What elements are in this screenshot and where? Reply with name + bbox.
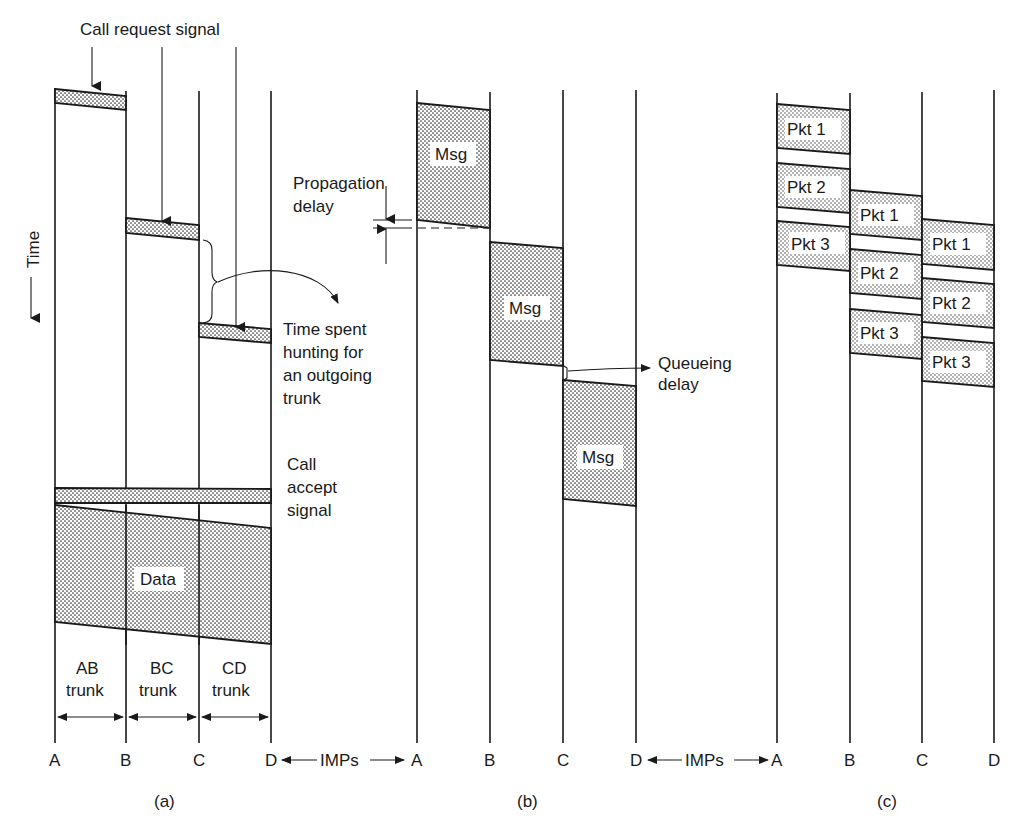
call-request-bar-ab	[55, 89, 126, 110]
svg-text:Pkt 3: Pkt 3	[791, 235, 830, 254]
hunting-label-line1: Time spent	[283, 320, 367, 339]
svg-text:Pkt 3: Pkt 3	[932, 353, 971, 372]
node-label-d: D	[265, 751, 277, 770]
msg-label-bc: Msg	[509, 299, 541, 318]
panel-c-caption: (c)	[877, 792, 897, 811]
node-label-c: C	[193, 751, 205, 770]
svg-text:Pkt 1: Pkt 1	[787, 120, 826, 139]
node-label-b: B	[484, 751, 495, 770]
switching-timing-diagram: Call request signal Time spent hunting f…	[0, 0, 1020, 827]
call-accept-bar	[55, 488, 271, 503]
call-request-label: Call request signal	[80, 20, 220, 39]
trunk-ab-label-line2: trunk	[66, 681, 104, 700]
node-label-b: B	[120, 751, 131, 770]
imps-label-bc: IMPs	[648, 751, 768, 770]
trunk-bc-label-line2: trunk	[139, 681, 177, 700]
hunting-label-line2: hunting for	[283, 343, 364, 362]
hunting-brace	[203, 240, 217, 323]
panel-a-caption: (a)	[154, 792, 175, 811]
trunk-cd-label-line1: CD	[222, 659, 247, 678]
propagation-label-line1: Propagation	[293, 174, 385, 193]
node-label-a: A	[411, 751, 423, 770]
panel-b-caption: (b)	[517, 792, 538, 811]
call-request-bar-bc	[126, 218, 199, 240]
time-axis: Time	[24, 231, 43, 318]
queueing-label-line1: Queueing	[658, 354, 732, 373]
svg-text:Pkt 3: Pkt 3	[860, 324, 899, 343]
svg-text:Pkt 2: Pkt 2	[787, 178, 826, 197]
queueing-label-line2: delay	[658, 375, 699, 394]
svg-text:Pkt 2: Pkt 2	[860, 264, 899, 283]
hunting-label-line3: an outgoing	[283, 366, 372, 385]
data-label: Data	[140, 570, 176, 589]
queueing-tick	[564, 366, 567, 380]
svg-text:Pkt 1: Pkt 1	[860, 206, 899, 225]
time-axis-label: Time	[24, 231, 43, 268]
node-label-b: B	[844, 751, 855, 770]
panel-a-circuit-switching: Call request signal Time spent hunting f…	[49, 20, 372, 811]
call-accept-label-line3: signal	[287, 501, 331, 520]
imps-label-ab: IMPs	[282, 751, 404, 770]
panel-b-message-switching: Msg Msg Msg Propagation delay Queueing d…	[293, 90, 732, 811]
node-label-c: C	[557, 751, 569, 770]
svg-text:IMPs: IMPs	[685, 751, 724, 770]
queueing-arrow	[568, 368, 650, 371]
msg-label-cd: Msg	[582, 448, 614, 467]
call-request-bar-cd	[199, 323, 271, 343]
node-label-d: D	[630, 751, 642, 770]
panel-c-packet-switching: Pkt 1 Pkt 2 Pkt 3 Pkt 1 Pkt 2 Pkt 3 Pkt …	[771, 90, 1000, 811]
hunting-label-line4: trunk	[283, 389, 321, 408]
node-label-a: A	[771, 751, 783, 770]
node-label-c: C	[916, 751, 928, 770]
msg-label-ab: Msg	[435, 145, 467, 164]
propagation-label-line2: delay	[293, 197, 334, 216]
msg-block-cd	[563, 380, 636, 506]
trunk-ab-label-line1: AB	[76, 659, 99, 678]
call-accept-label-line2: accept	[287, 478, 337, 497]
svg-text:Pkt 2: Pkt 2	[932, 294, 971, 313]
node-label-a: A	[49, 751, 61, 770]
call-accept-label-line1: Call	[287, 455, 316, 474]
trunk-cd-label-line2: trunk	[212, 681, 250, 700]
svg-text:IMPs: IMPs	[320, 751, 359, 770]
svg-text:Pkt 1: Pkt 1	[932, 235, 971, 254]
node-label-d: D	[988, 751, 1000, 770]
trunk-bc-label-line1: BC	[150, 659, 174, 678]
